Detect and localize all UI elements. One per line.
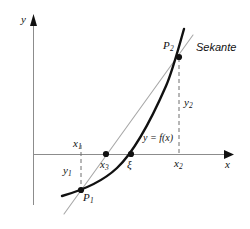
x-axis-label: x bbox=[225, 159, 230, 170]
point-p2-dot bbox=[176, 54, 182, 60]
x3-label: x3 bbox=[100, 159, 109, 170]
point-x3-dot bbox=[103, 151, 109, 157]
p2-label: P2 bbox=[163, 40, 173, 51]
y2-label: y2 bbox=[184, 97, 193, 108]
x1-label: x1 bbox=[73, 138, 82, 149]
secant-line-figure: y x x1 x2 x3 ξ y1 y2 P1 P2 y = f(x) Seka… bbox=[0, 0, 250, 229]
y-axis-label: y bbox=[21, 14, 26, 25]
y-axis-arrowhead bbox=[30, 14, 37, 26]
function-curve bbox=[62, 29, 184, 196]
p1-label: P1 bbox=[83, 192, 93, 203]
figure-canvas bbox=[0, 0, 250, 229]
x2-label: x2 bbox=[174, 158, 183, 169]
point-xi-dot bbox=[128, 151, 134, 157]
xi-label: ξ bbox=[127, 159, 132, 170]
function-label: y = f(x) bbox=[143, 133, 173, 143]
secant-label: Sekante bbox=[196, 42, 236, 53]
y1-label: y1 bbox=[63, 165, 72, 176]
